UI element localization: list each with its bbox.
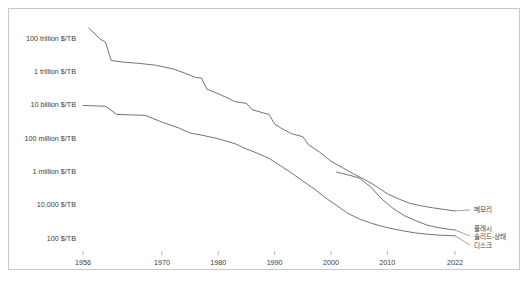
y-axis-tick-label: 1 trillion $/TB — [34, 67, 76, 76]
legend-label-memory: 메모리 — [474, 205, 492, 214]
legend-label-disk: 디스크 — [474, 241, 492, 250]
y-axis-tick-label: 100 trillion $/TB — [26, 34, 76, 43]
y-axis-tick-label: 10,000 $/TB — [37, 200, 76, 209]
legend-leader-memory — [455, 210, 470, 211]
x-axis-tick-label: 1956 — [75, 258, 91, 267]
chart-figure: 100 trillion $/TB1 trillion $/TB10 billi… — [0, 0, 529, 287]
legend-label-flash-ssd-line1: 플래시 — [474, 224, 492, 233]
series-line-flash-ssd — [337, 172, 455, 230]
legend-leader-flash-ssd — [455, 230, 470, 236]
y-axis-tick-label: 10 billion $/TB — [30, 100, 76, 109]
x-axis-tick-label: 2022 — [447, 258, 463, 267]
legend-label-flash-ssd-line2: 솔리드-상태 — [474, 232, 506, 241]
series-line-memory — [89, 28, 455, 211]
y-axis-tick-label: 100 million $/TB — [24, 134, 76, 143]
x-axis-tick-label: 1970 — [154, 258, 170, 267]
x-axis-tick-label: 2010 — [379, 258, 395, 267]
x-axis-tick-label: 1980 — [210, 258, 226, 267]
storage-cost-log-chart: 100 trillion $/TB1 trillion $/TB10 billi… — [0, 0, 529, 287]
series-line-disk — [83, 105, 455, 235]
y-axis-tick-label: 1 million $/TB — [32, 167, 76, 176]
x-axis-tick-label: 2000 — [323, 258, 339, 267]
y-axis-tick-label: 100 $/TB — [47, 234, 76, 243]
legend-leader-disk — [455, 236, 470, 245]
x-axis-tick-label: 1990 — [267, 258, 283, 267]
